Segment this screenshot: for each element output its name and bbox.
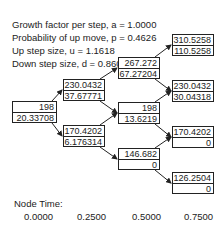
node-value: 20.33708	[13, 113, 56, 123]
tree-node: 146.682 0	[118, 148, 160, 170]
node-price: 230.0432	[64, 80, 104, 91]
node-price: 146.682	[119, 149, 159, 160]
tree-node: 230.0432 30.04318	[172, 80, 214, 102]
tree-node: 230.0432 37.67771	[63, 79, 105, 101]
node-time-0: 0.0000	[24, 211, 53, 222]
node-time-1: 0.2500	[77, 211, 106, 222]
node-value: 30.04318	[173, 92, 213, 102]
tree-node: 267.272 67.27204	[118, 57, 160, 79]
tree-node: 126.2504 0	[172, 172, 214, 194]
tree-node: 170.4202 0	[172, 126, 214, 148]
node-value: 13.6219	[119, 114, 159, 124]
node-price: 267.272	[119, 58, 159, 69]
node-time-2: 0.5000	[132, 211, 161, 222]
node-price: 310.5258	[173, 35, 213, 46]
tree-node: 310.5258 110.5258	[172, 34, 214, 56]
node-time-3: 0.7500	[184, 211, 213, 222]
tree-node: 198 13.6219	[118, 102, 160, 124]
tree-node: 198 20.33708	[12, 101, 57, 123]
node-value: 37.67771	[64, 91, 104, 101]
node-price: 230.0432	[173, 81, 213, 92]
node-price: 126.2504	[173, 173, 213, 184]
node-price: 170.4202	[173, 127, 213, 138]
node-value: 67.27204	[119, 69, 159, 79]
node-price: 170.4202	[64, 126, 104, 137]
node-value: 0	[119, 160, 159, 170]
node-price: 198	[13, 102, 56, 113]
node-value: 110.5258	[173, 46, 213, 56]
node-time-label: Node Time:	[14, 198, 63, 209]
node-value: 6.176314	[64, 137, 104, 147]
node-value: 0	[173, 138, 213, 148]
tree-node: 170.4202 6.176314	[63, 125, 105, 147]
node-price: 198	[119, 103, 159, 114]
node-value: 0	[173, 184, 213, 194]
